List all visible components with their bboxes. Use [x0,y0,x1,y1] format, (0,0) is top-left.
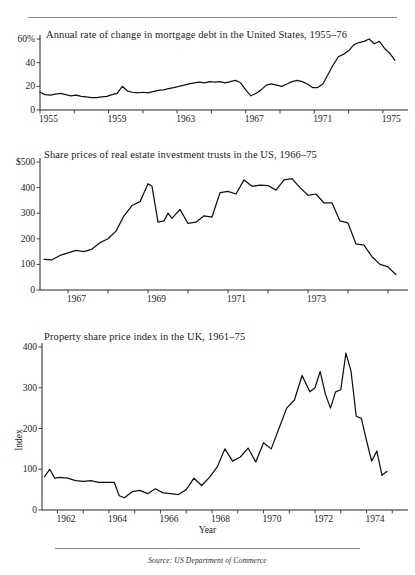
chart-1-data-line [40,39,395,98]
chart-2-xtick-label: 1971 [227,294,246,304]
chart-1-ytick-label: 0 [30,105,35,115]
chart-2-data-line [44,179,396,275]
chart-2-xtick-label: 1969 [147,294,166,304]
chart-panel-reit-prices: Share prices of real estate investment t… [0,140,415,320]
chart-3-xtick-label: 1970 [262,514,281,524]
chart-1-xtick-label: 1959 [108,114,127,124]
chart-1-xtick-label: 1963 [176,114,195,124]
chart-2-ytick-label: 100 [21,259,35,269]
chart-1-plot [0,0,415,140]
chart-1-xtick-label: 1955 [39,114,58,124]
source-note: Source: US Department of Commerce [0,556,415,565]
chart-3-xtick-label: 1962 [56,514,75,524]
chart-1-ytick-label: 20 [26,81,36,91]
chart-3-data-line [45,353,388,498]
chart-1-xtick-label: 1975 [382,114,401,124]
chart-3-xtick-label: 1974 [366,514,385,524]
chart-panel-uk-property: Property share price index in the UK, 19… [0,320,415,545]
chart-2-plot [0,140,415,320]
figure-page: Annual rate of change in mortgage debt i… [0,0,415,575]
chart-1-ytick-label: 60% [18,34,35,44]
chart-3-ytick-label: 0 [32,505,37,515]
chart-3-xtick-label: 1972 [314,514,333,524]
chart-3-xtick-label: 1968 [211,514,230,524]
chart-3-ytick-label: 300 [23,383,37,393]
chart-2-xtick-label: 1973 [307,294,326,304]
chart-2-ytick-label: 200 [21,234,35,244]
chart-1-ytick-label: 40 [26,58,36,68]
chart-1-xtick-label: 1971 [313,114,332,124]
bottom-divider-rule [55,548,360,549]
chart-2-xtick-label: 1967 [67,294,86,304]
chart-3-ytick-label: 200 [23,424,37,434]
chart-2-ytick-label: 400 [21,183,35,193]
chart-3-ytick-label: 100 [23,464,37,474]
chart-2-ytick-label: 0 [30,285,35,295]
chart-1-xtick-label: 1967 [245,114,264,124]
chart-panel-mortgage-debt: Annual rate of change in mortgage debt i… [0,0,415,140]
chart-3-xtick-label: 1966 [159,514,178,524]
chart-3-plot [0,320,415,545]
chart-3-xtick-label: 1964 [108,514,127,524]
chart-3-ytick-label: 400 [23,342,37,352]
chart-2-ytick-label: $500 [16,157,35,167]
chart-2-ytick-label: 300 [21,208,35,218]
